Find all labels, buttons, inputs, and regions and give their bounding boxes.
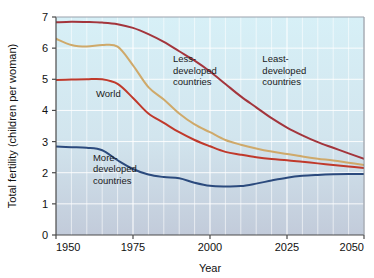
y-tick-label: 4 xyxy=(42,104,48,116)
y-tick-label: 1 xyxy=(42,198,48,210)
y-tick-label: 2 xyxy=(42,167,48,179)
x-tick-label: 1950 xyxy=(56,241,80,253)
y-tick-label: 7 xyxy=(42,11,48,23)
y-tick-label: 3 xyxy=(42,136,48,148)
series-label-2: World xyxy=(96,88,121,99)
x-tick-label: 1975 xyxy=(121,241,145,253)
x-tick-label: 2050 xyxy=(340,241,364,253)
y-tick-label: 6 xyxy=(42,42,48,54)
y-tick-label: 0 xyxy=(42,229,48,241)
fertility-chart-figure: 01234567 19501975200020252050 Year Total… xyxy=(0,0,374,278)
y-axis-title: Total fertility (children per woman) xyxy=(6,44,18,208)
x-tick-label: 2000 xyxy=(198,241,222,253)
y-tick-label: 5 xyxy=(42,73,48,85)
x-axis-title: Year xyxy=(199,262,222,274)
x-tick-label: 2025 xyxy=(275,241,299,253)
chart-canvas: 01234567 19501975200020252050 Year Total… xyxy=(0,0,374,278)
